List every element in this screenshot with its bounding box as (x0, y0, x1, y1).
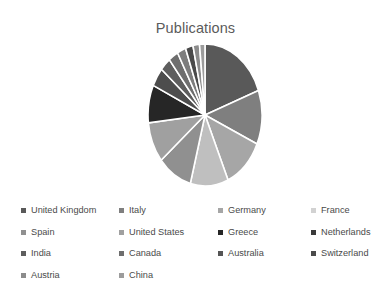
legend-swatch-icon (311, 208, 316, 213)
legend-swatch-icon (21, 208, 26, 213)
legend-item-label: United Kingdom (31, 206, 96, 215)
legend-swatch-icon (21, 273, 26, 278)
legend-item-label: Canada (129, 249, 161, 258)
legend-item-label: Spain (31, 228, 55, 237)
legend-swatch-icon (119, 251, 124, 256)
legend-item[interactable]: China (119, 265, 153, 287)
legend-swatch-icon (311, 230, 316, 235)
legend-swatch-icon (218, 208, 223, 213)
legend-item-label: Australia (228, 249, 264, 258)
legend-item-label: Germany (228, 206, 266, 215)
legend-swatch-icon (218, 230, 223, 235)
legend-item-label: India (31, 249, 51, 258)
legend-item[interactable]: Switzerland (311, 243, 369, 265)
chart-title: Publications (0, 20, 391, 36)
legend-swatch-icon (218, 251, 223, 256)
legend-swatch-icon (119, 208, 124, 213)
legend-item[interactable]: Italy (119, 200, 146, 222)
legend-swatch-icon (21, 251, 26, 256)
legend-item[interactable]: India (21, 243, 51, 265)
legend-item[interactable]: United Kingdom (21, 200, 96, 222)
legend-item[interactable]: Greece (218, 222, 258, 244)
legend-item[interactable]: Australia (218, 243, 264, 265)
legend-item-label: Austria (31, 271, 60, 280)
legend-item[interactable]: Germany (218, 200, 266, 222)
legend-row: United KingdomItalyGermanyFrance (21, 200, 387, 222)
legend-item[interactable]: United States (119, 222, 184, 244)
legend-item-label: Switzerland (321, 249, 369, 258)
pie-chart-card: Publications United KingdomItalyGermanyF… (0, 0, 391, 291)
legend-swatch-icon (311, 251, 316, 256)
legend-item[interactable]: Austria (21, 265, 60, 287)
chart-legend: United KingdomItalyGermanyFranceSpainUni… (21, 200, 387, 286)
pie-svg: United KingdomItalyGermanyFranceSpainUni… (146, 43, 264, 186)
legend-row: SpainUnited StatesGreeceNetherlands (21, 222, 387, 244)
legend-swatch-icon (119, 230, 124, 235)
legend-item[interactable]: Netherlands (311, 222, 371, 244)
legend-item-label: Netherlands (321, 228, 371, 237)
legend-item-label: France (321, 206, 350, 215)
pie-chart-graphic[interactable]: United KingdomItalyGermanyFranceSpainUni… (146, 43, 264, 186)
legend-row: IndiaCanadaAustraliaSwitzerland (21, 243, 387, 265)
legend-item[interactable]: Canada (119, 243, 161, 265)
legend-item[interactable]: Spain (21, 222, 55, 244)
legend-item-label: United States (129, 228, 184, 237)
pie-slice-group: United KingdomItalyGermanyFranceSpainUni… (148, 44, 262, 186)
legend-swatch-icon (119, 273, 124, 278)
legend-swatch-icon (21, 230, 26, 235)
legend-row: AustriaChina (21, 265, 387, 287)
legend-item-label: Italy (129, 206, 146, 215)
legend-item-label: Greece (228, 228, 258, 237)
legend-item-label: China (129, 271, 153, 280)
legend-item[interactable]: France (311, 200, 350, 222)
